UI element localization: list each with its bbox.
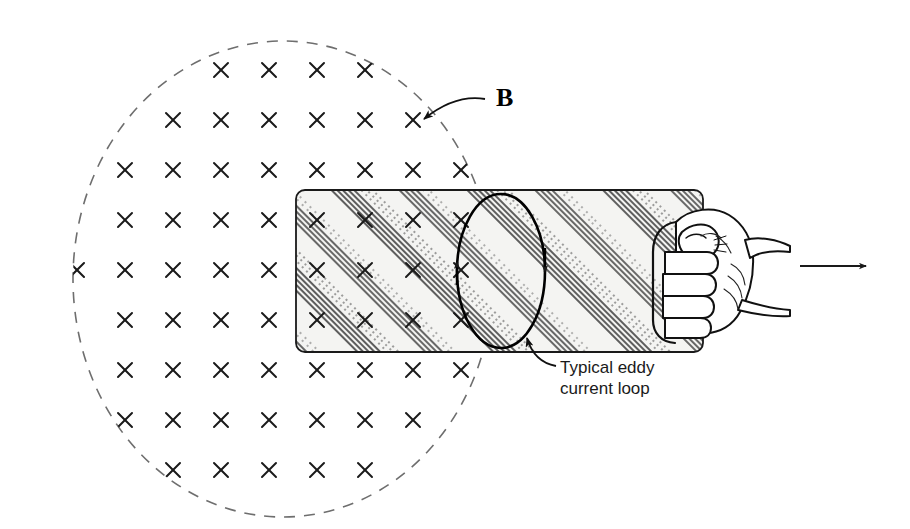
field-marker-x-icon: [262, 263, 276, 277]
field-marker-x-icon: [310, 63, 324, 77]
field-label-B: B: [496, 83, 513, 112]
field-marker-x-icon: [214, 463, 228, 477]
field-marker-x-icon: [358, 363, 372, 377]
plate-body: [296, 190, 703, 352]
field-marker-x-icon: [166, 263, 180, 277]
finger-1: [665, 252, 718, 274]
field-marker-x-icon: [454, 363, 468, 377]
field-marker-x-icon: [262, 463, 276, 477]
field-marker-x-icon: [406, 163, 420, 177]
field-marker-x-icon: [358, 463, 372, 477]
field-marker-x-icon: [214, 263, 228, 277]
field-marker-x-icon: [166, 113, 180, 127]
field-marker-x-icon: [406, 113, 420, 127]
field-marker-x-icon: [166, 213, 180, 227]
field-marker-x-icon: [310, 363, 324, 377]
eddy-current-figure: B Typical eddy current loop: [0, 0, 910, 529]
field-marker-x-icon: [358, 413, 372, 427]
field-marker-x-icon: [214, 363, 228, 377]
field-marker-x-icon: [310, 463, 324, 477]
field-marker-x-icon: [118, 163, 132, 177]
field-marker-x-icon: [166, 163, 180, 177]
finger-3: [663, 296, 714, 318]
field-marker-x-icon: [310, 413, 324, 427]
field-marker-x-icon: [310, 163, 324, 177]
eddy-label-line-1: Typical eddy: [560, 358, 655, 377]
finger-2: [663, 274, 716, 296]
field-marker-x-icon: [214, 163, 228, 177]
field-marker-x-icon: [118, 313, 132, 327]
field-label-leader-line: [424, 98, 485, 119]
eddy-label-line-2: current loop: [560, 379, 650, 398]
finger-4: [665, 318, 711, 338]
field-marker-x-icon: [262, 363, 276, 377]
field-marker-x-icon: [70, 263, 84, 277]
field-marker-x-icon: [214, 313, 228, 327]
field-label-group: B: [424, 83, 513, 119]
field-marker-x-icon: [358, 163, 372, 177]
field-marker-x-icon: [262, 163, 276, 177]
field-marker-x-icon: [214, 63, 228, 77]
metal-plate: [296, 190, 703, 352]
field-marker-x-icon: [262, 113, 276, 127]
field-marker-x-icon: [262, 313, 276, 327]
figure-canvas: B Typical eddy current loop: [0, 0, 910, 529]
field-marker-x-icon: [166, 463, 180, 477]
field-marker-x-icon: [262, 213, 276, 227]
field-marker-x-icon: [262, 63, 276, 77]
field-marker-x-icon: [118, 213, 132, 227]
field-marker-x-icon: [406, 363, 420, 377]
field-marker-x-icon: [262, 413, 276, 427]
field-marker-x-icon: [310, 113, 324, 127]
field-marker-x-icon: [358, 63, 372, 77]
forearm-lower: [738, 300, 790, 316]
field-marker-x-icon: [214, 113, 228, 127]
wrist: [745, 238, 790, 258]
field-marker-x-icon: [118, 263, 132, 277]
field-marker-x-icon: [166, 313, 180, 327]
field-marker-x-icon: [358, 113, 372, 127]
field-marker-x-icon: [454, 163, 468, 177]
field-marker-x-icon: [118, 413, 132, 427]
field-marker-x-icon: [214, 213, 228, 227]
field-marker-x-icon: [406, 413, 420, 427]
field-marker-x-icon: [214, 413, 228, 427]
field-marker-x-icon: [118, 363, 132, 377]
field-marker-x-icon: [166, 413, 180, 427]
field-marker-x-icon: [166, 363, 180, 377]
